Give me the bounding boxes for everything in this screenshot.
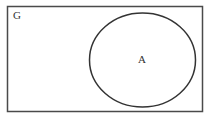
set-a-label: A xyxy=(138,53,146,65)
venn-diagram: G A xyxy=(0,0,213,114)
universe-label: G xyxy=(13,9,21,21)
